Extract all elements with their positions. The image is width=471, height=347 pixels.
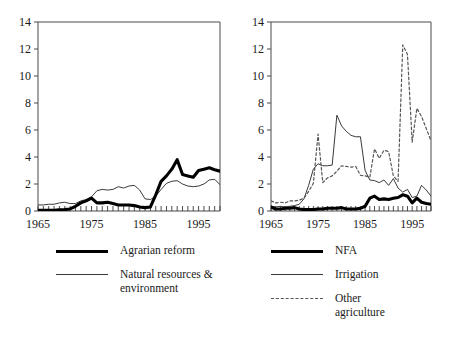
- legend-label: Other agriculture: [335, 291, 385, 319]
- legend-label: Irrigation: [335, 267, 378, 282]
- svg-text:0: 0: [258, 204, 264, 218]
- legend-item-other-agriculture: Other agriculture: [235, 291, 471, 319]
- svg-text:1965: 1965: [26, 217, 50, 231]
- legend-left: Agrarian reform Natural resources & envi…: [0, 243, 235, 303]
- svg-text:8: 8: [25, 96, 31, 110]
- svg-text:6: 6: [25, 123, 31, 137]
- legend-label: Natural resources & environment: [120, 267, 213, 295]
- svg-text:1975: 1975: [80, 217, 104, 231]
- legend-right: NFA Irrigation Other agriculture: [235, 243, 471, 327]
- svg-text:8: 8: [258, 96, 264, 110]
- svg-text:14: 14: [19, 15, 31, 29]
- svg-text:12: 12: [252, 42, 264, 56]
- legend-item-nfa: NFA: [235, 243, 471, 259]
- legend-item-agrarian-reform: Agrarian reform: [0, 243, 235, 259]
- chart-panel-left: 024681012141965197519851995 Agrarian ref…: [0, 0, 235, 347]
- svg-text:4: 4: [25, 150, 31, 164]
- legend-swatch-thin-line: [56, 267, 108, 283]
- plot-area-left: 024681012141965197519851995: [0, 0, 235, 240]
- svg-text:10: 10: [252, 69, 264, 83]
- legend-label: NFA: [335, 243, 357, 258]
- svg-text:1985: 1985: [353, 217, 377, 231]
- legend-swatch-dashed-line: [271, 291, 323, 307]
- svg-text:2: 2: [25, 177, 31, 191]
- legend-swatch-thin-line: [271, 267, 323, 283]
- svg-text:10: 10: [19, 69, 31, 83]
- svg-text:1995: 1995: [187, 217, 211, 231]
- svg-text:12: 12: [19, 42, 31, 56]
- chart-panel-right: 024681012141965197519851995 NFA Irrigati…: [235, 0, 471, 347]
- legend-item-natural-resources-environment: Natural resources & environment: [0, 267, 235, 295]
- svg-text:1985: 1985: [133, 217, 157, 231]
- svg-text:1965: 1965: [259, 217, 283, 231]
- legend-swatch-thick-line: [271, 243, 323, 259]
- two-panel-line-chart-figure: 024681012141965197519851995 Agrarian ref…: [0, 0, 471, 347]
- legend-label: Agrarian reform: [120, 243, 195, 258]
- svg-text:1995: 1995: [400, 217, 424, 231]
- svg-text:1975: 1975: [306, 217, 330, 231]
- plot-area-right: 024681012141965197519851995: [235, 0, 471, 240]
- svg-text:4: 4: [258, 150, 264, 164]
- svg-text:0: 0: [25, 204, 31, 218]
- legend-item-irrigation: Irrigation: [235, 267, 471, 283]
- svg-text:6: 6: [258, 123, 264, 137]
- legend-swatch-thick-line: [56, 243, 108, 259]
- svg-text:14: 14: [252, 15, 264, 29]
- svg-text:2: 2: [258, 177, 264, 191]
